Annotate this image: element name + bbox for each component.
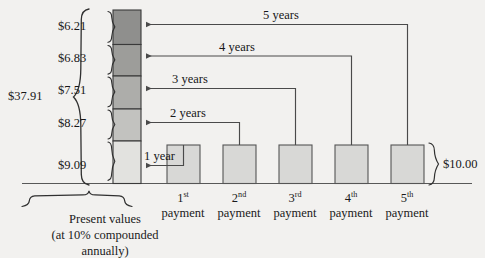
years-label-5: 5 years bbox=[263, 9, 299, 22]
stack-segment-3yr bbox=[113, 76, 141, 109]
present-values-caption: Present values (at 10% compounded annual… bbox=[0, 211, 210, 258]
segment-value-4yr: $6.83 bbox=[58, 52, 86, 65]
payment-bars bbox=[167, 145, 424, 184]
segment-value-3yr: $7.51 bbox=[58, 84, 86, 97]
brace-annuity-payment bbox=[429, 143, 439, 185]
stack-segment-4yr bbox=[113, 45, 141, 77]
payment-bar-2 bbox=[223, 145, 256, 184]
payment-bar-3 bbox=[279, 145, 312, 184]
annuity-payment-label: $10.00 bbox=[443, 158, 477, 171]
years-label-1: 1 year bbox=[144, 150, 175, 163]
segment-value-1yr: $9.09 bbox=[58, 159, 86, 172]
caption-line-1: Present values bbox=[0, 211, 210, 227]
years-label-2: 2 years bbox=[170, 107, 206, 120]
payment-ordinal-5: 5th bbox=[370, 191, 444, 206]
segment-value-2yr: $8.27 bbox=[58, 117, 86, 130]
segment-value-5yr: $6.21 bbox=[58, 20, 86, 33]
stack-segment-5yr bbox=[113, 10, 141, 45]
total-present-value-label: $37.91 bbox=[8, 90, 42, 103]
discount-arrow-2-years bbox=[146, 123, 240, 146]
payment-bar-5 bbox=[391, 145, 424, 184]
payment-word-5: payment bbox=[370, 206, 444, 221]
discount-arrow-3-years bbox=[146, 89, 296, 146]
caption-line-2: (at 10% compounded bbox=[0, 227, 210, 243]
stack-segment-2yr bbox=[113, 109, 141, 141]
payment-label-5: 5th payment bbox=[370, 191, 444, 221]
stacked-present-value-bar bbox=[113, 10, 141, 184]
present-value-annuity-figure: $6.21 $6.83 $7.51 $8.27 $9.09 $37.91 5 y… bbox=[0, 0, 485, 258]
brace-present-values-caption bbox=[22, 191, 132, 207]
stack-segment-1yr bbox=[113, 141, 141, 184]
years-label-3: 3 years bbox=[172, 73, 208, 86]
caption-line-3: annually) bbox=[0, 243, 210, 258]
years-label-4: 4 years bbox=[219, 41, 255, 54]
payment-bar-4 bbox=[335, 145, 368, 184]
discount-arrow-4-years bbox=[146, 56, 352, 145]
